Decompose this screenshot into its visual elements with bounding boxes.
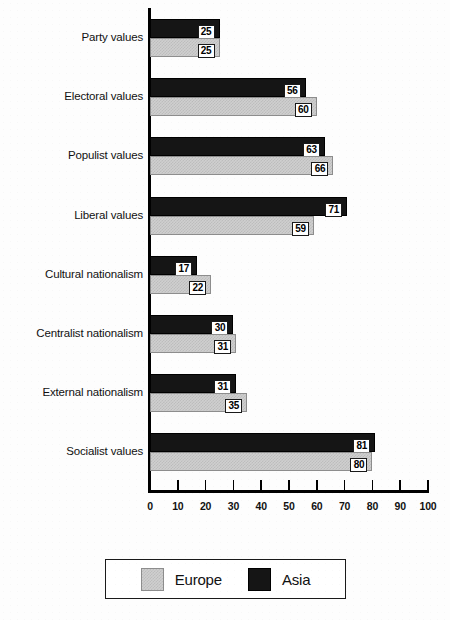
bar-asia [150,137,325,156]
bar-value-label: 80 [350,458,367,472]
legend-label-asia: Asia [282,571,310,588]
x-tick-label: 50 [274,500,304,512]
asia-swatch-icon [248,568,271,591]
x-tick [427,480,429,490]
x-tick [372,480,374,490]
bar-value-label: 81 [353,439,370,453]
bar-europe [150,97,317,116]
category-label: Liberal values [0,209,143,221]
bar-asia [150,78,306,97]
bar-value-label: 25 [198,25,215,39]
bar-value-label: 60 [295,103,312,117]
x-axis-line [148,490,429,493]
x-tick-label: 30 [218,500,248,512]
x-tick-label: 20 [191,500,221,512]
bar-asia [150,197,347,216]
bar-value-label: 17 [175,262,192,276]
bar-value-label: 71 [325,203,342,217]
bar-value-label: 63 [303,143,320,157]
x-tick [316,480,318,490]
x-tick-label: 90 [385,500,415,512]
chart-legend: Europe Asia [105,559,346,599]
bar-europe [150,156,333,175]
x-tick [205,480,207,490]
x-tick-label: 40 [246,500,276,512]
category-label: External nationalism [0,386,143,398]
x-tick-label: 0 [135,500,165,512]
plot-area: 0102030405060708090100 Party values2525E… [0,0,450,500]
bar-value-label: 66 [311,162,328,176]
legend-label-europe: Europe [175,571,222,588]
x-tick-label: 60 [302,500,332,512]
legend-item-asia: Asia [248,568,310,591]
x-tick [260,480,262,490]
europe-swatch-icon [141,568,164,591]
x-tick [344,480,346,490]
bar-value-label: 25 [198,44,215,58]
x-tick [233,480,235,490]
x-tick [399,480,401,490]
category-label: Centralist nationalism [0,327,143,339]
bar-asia [150,433,375,452]
bar-value-label: 56 [284,84,301,98]
bar-value-label: 30 [211,321,228,335]
category-label: Cultural nationalism [0,268,143,280]
bar-value-label: 22 [189,281,206,295]
bar-chart: 0102030405060708090100 Party values2525E… [0,0,450,620]
x-tick [288,480,290,490]
x-tick [177,480,179,490]
x-tick-label: 100 [413,500,443,512]
category-label: Socialist values [0,445,143,457]
bar-europe [150,216,314,235]
category-label: Electoral values [0,90,143,102]
bar-value-label: 59 [292,222,309,236]
category-label: Populist values [0,149,143,161]
legend-item-europe: Europe [141,568,222,591]
bar-europe [150,452,372,471]
bar-value-label: 31 [214,340,231,354]
bar-value-label: 35 [225,399,242,413]
x-tick-label: 10 [163,500,193,512]
category-label: Party values [0,31,143,43]
x-tick-label: 80 [357,500,387,512]
x-tick [149,480,151,490]
bar-value-label: 31 [214,380,231,394]
x-tick-label: 70 [330,500,360,512]
